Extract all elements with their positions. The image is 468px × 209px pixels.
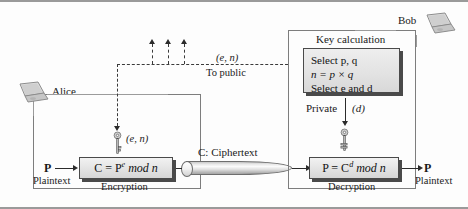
bob-actor-label: Bob xyxy=(398,15,416,26)
private-key-arrowhead xyxy=(342,121,348,126)
alice-plaintext-label: Plaintext xyxy=(33,176,70,187)
alice-actor-label: Alice xyxy=(52,86,76,97)
ciphertext-label: C: Ciphertext xyxy=(198,147,258,158)
public-key-dashed-bus xyxy=(117,64,288,65)
public-arrow-stem-2 xyxy=(168,44,169,64)
decryption-caption: Decryption xyxy=(328,182,375,193)
public-key-drop-arrowhead xyxy=(114,126,120,131)
private-key-value: (d) xyxy=(352,103,365,114)
alice-laptop-lead xyxy=(47,94,168,95)
decryption-formula: P = Cd mod n xyxy=(322,161,386,176)
private-key-label: Private xyxy=(306,103,337,114)
key-icon xyxy=(339,128,350,152)
bob-laptop-stand xyxy=(416,35,417,47)
rsa-diagram-figure: Alice C = Pe mod n Encryption P Plaintex… xyxy=(0,0,468,209)
encryption-process-box: C = Pe mod n xyxy=(79,157,173,179)
laptop-icon xyxy=(14,81,50,107)
alice-public-key-label: (e, n) xyxy=(126,134,148,145)
encryption-to-channel-line xyxy=(176,168,182,169)
key-calculation-title: Key calculation xyxy=(316,34,385,45)
encryption-caption: Encryption xyxy=(101,182,148,193)
keycalc-line-3: Select e and d xyxy=(311,81,393,95)
public-key-dashed-drop xyxy=(117,64,118,126)
key-icon xyxy=(112,131,123,155)
public-arrow-head-3 xyxy=(181,39,187,44)
to-public-label: To public xyxy=(206,68,246,79)
alice-plaintext-symbol: P xyxy=(44,162,51,174)
keycalc-line-2: n = p × q xyxy=(311,67,393,81)
bob-plaintext-symbol: P xyxy=(424,162,431,174)
alice-laptop-stand xyxy=(33,102,34,116)
public-key-pair-label: (e, n) xyxy=(216,53,238,64)
bob-plaintext-arrowhead xyxy=(418,165,423,171)
laptop-icon xyxy=(421,12,457,38)
public-arrow-stem-1 xyxy=(152,44,153,64)
encryption-formula: C = Pe mod n xyxy=(94,161,158,176)
alice-plaintext-arrowhead xyxy=(73,165,78,171)
bob-plaintext-label: Plaintext xyxy=(415,176,452,187)
alice-plaintext-arrow-line xyxy=(55,168,73,169)
public-arrow-stem-3 xyxy=(184,44,185,64)
public-arrow-head-2 xyxy=(165,39,171,44)
private-key-line xyxy=(345,98,346,121)
key-calculation-box: Select p, q n = p × q Select e and d xyxy=(303,48,400,93)
bob-plaintext-arrow-line xyxy=(402,168,418,169)
cylinder-pipe-icon xyxy=(181,161,292,175)
decryption-process-box: P = Cd mod n xyxy=(309,157,399,179)
keycalc-line-1: Select p, q xyxy=(311,53,393,67)
public-arrow-head-1 xyxy=(149,39,155,44)
bob-laptop-lead xyxy=(355,30,396,31)
